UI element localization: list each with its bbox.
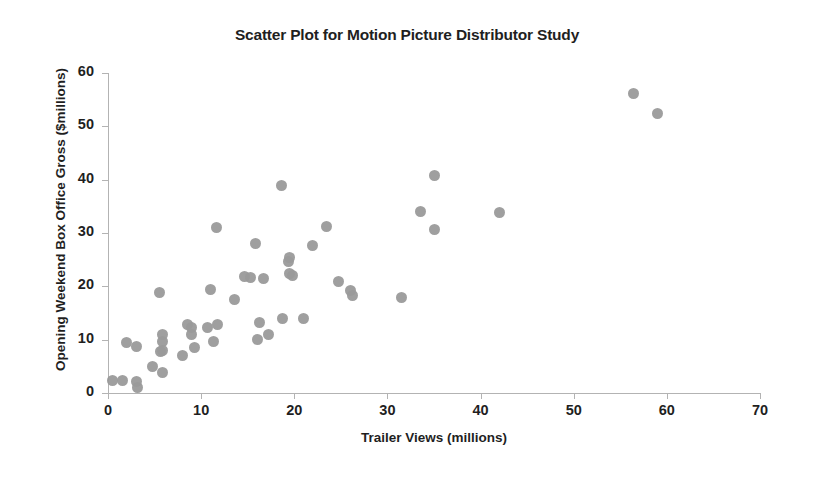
x-axis-tick-label: 30 (357, 402, 417, 418)
scatter-point (245, 272, 256, 283)
scatter-point (494, 207, 505, 218)
scatter-point (229, 294, 240, 305)
scatter-point (157, 345, 168, 356)
x-axis-tick-label: 0 (78, 402, 138, 418)
scatter-point (347, 290, 358, 301)
scatter-point (284, 268, 295, 279)
scatter-point (429, 170, 440, 181)
scatter-point (205, 284, 216, 295)
scatter-point (212, 319, 223, 330)
x-axis-tick (108, 393, 109, 399)
scatter-point (117, 375, 128, 386)
scatter-point (131, 341, 142, 352)
x-axis-tick-label: 40 (451, 402, 511, 418)
y-axis-tick (102, 180, 108, 181)
x-axis-tick-label: 50 (544, 402, 604, 418)
x-axis-tick-label: 70 (730, 402, 790, 418)
y-axis-tick-label: 10 (38, 330, 94, 346)
scatter-point (396, 292, 407, 303)
x-axis-line (108, 393, 760, 394)
chart-title: Scatter Plot for Motion Picture Distribu… (0, 26, 814, 44)
y-axis-tick-label: 20 (38, 276, 94, 292)
scatter-point (652, 108, 663, 119)
scatter-point (277, 313, 288, 324)
scatter-plot-figure: Scatter Plot for Motion Picture Distribu… (0, 0, 814, 481)
scatter-point (250, 238, 261, 249)
y-axis-tick (102, 73, 108, 74)
x-axis-tick (574, 393, 575, 399)
x-axis-tick (387, 393, 388, 399)
scatter-point (307, 240, 318, 251)
scatter-point (254, 317, 265, 328)
scatter-point (263, 329, 274, 340)
scatter-point (284, 252, 295, 263)
x-axis-tick (201, 393, 202, 399)
y-axis-tick (102, 286, 108, 287)
x-axis-tick (760, 393, 761, 399)
x-axis-tick-label: 10 (171, 402, 231, 418)
scatter-point (177, 350, 188, 361)
x-axis-tick (294, 393, 295, 399)
y-axis-tick-label: 0 (38, 383, 94, 399)
x-axis-tick (667, 393, 668, 399)
scatter-point (132, 382, 143, 393)
scatter-point (333, 276, 344, 287)
scatter-point (628, 88, 639, 99)
y-axis-tick (102, 233, 108, 234)
scatter-point (276, 180, 287, 191)
scatter-point (154, 287, 165, 298)
scatter-point (415, 206, 426, 217)
scatter-point (208, 336, 219, 347)
y-axis-tick-label: 30 (38, 223, 94, 239)
scatter-point (211, 222, 222, 233)
scatter-point (298, 313, 309, 324)
y-axis-tick-label: 50 (38, 116, 94, 132)
x-axis-tick (481, 393, 482, 399)
scatter-point (189, 342, 200, 353)
y-axis-tick-label: 40 (38, 170, 94, 186)
scatter-point (258, 273, 269, 284)
y-axis-tick (102, 340, 108, 341)
y-axis-tick (102, 126, 108, 127)
scatter-point (186, 329, 197, 340)
x-axis-tick-label: 60 (637, 402, 697, 418)
y-axis-tick-label: 60 (38, 63, 94, 79)
scatter-point (157, 329, 168, 340)
plot-area (108, 73, 760, 393)
y-axis-tick (102, 393, 108, 394)
scatter-point (429, 224, 440, 235)
y-axis-label: Opening Weekend Box Office Gross ($milli… (53, 20, 68, 420)
scatter-point (252, 334, 263, 345)
x-axis-label: Trailer Views (millions) (108, 430, 760, 445)
x-axis-tick-label: 20 (264, 402, 324, 418)
scatter-point (321, 221, 332, 232)
scatter-point (157, 367, 168, 378)
